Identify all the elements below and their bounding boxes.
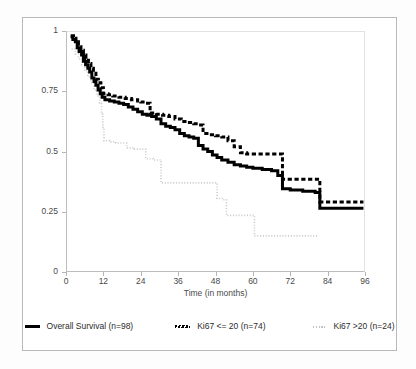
x-tick-mark: [66, 272, 67, 276]
chart-legend: Overall Survival (n=98) Ki67 <= 20 (n=74…: [22, 316, 397, 336]
dotted-line-swatch-icon: [312, 322, 329, 330]
figure-canvas: 10.750.50.250 01224364860728496 Time (in…: [0, 0, 416, 369]
x-tick-label: 84: [313, 277, 343, 286]
x-tick-mark: [253, 272, 254, 276]
y-tick-label: 0.5: [26, 147, 58, 156]
x-tick-label: 60: [238, 277, 268, 286]
y-tick-label: 0: [26, 267, 58, 276]
x-tick-label: 72: [275, 277, 305, 286]
legend-label-overall-survival: Overall Survival (n=98): [47, 321, 134, 331]
ki67-low-curve: [71, 36, 364, 202]
x-tick-mark: [178, 272, 179, 276]
x-axis-title: Time (in months): [66, 288, 365, 298]
legend-item-overall-survival: Overall Survival (n=98): [25, 321, 134, 331]
dashed-line-swatch-icon: [175, 322, 192, 330]
x-tick-mark: [328, 272, 329, 276]
x-tick-mark: [216, 272, 217, 276]
legend-item-ki67-high: Ki67 >20 (n=24): [312, 321, 395, 331]
x-tick-label: 12: [88, 277, 118, 286]
legend-label-ki67-low: Ki67 <= 20 (n=74): [197, 321, 265, 331]
x-tick-mark: [141, 272, 142, 276]
solid-line-swatch-icon: [25, 322, 42, 330]
x-tick-label: 96: [350, 277, 380, 286]
y-tick-label: 0.25: [26, 207, 58, 216]
plot-area: [66, 31, 365, 272]
survival-curves: [66, 31, 365, 272]
x-tick-label: 48: [201, 277, 231, 286]
legend-label-ki67-high: Ki67 >20 (n=24): [334, 321, 395, 331]
x-tick-mark: [103, 272, 104, 276]
y-tick-label: 1: [26, 26, 58, 35]
y-tick-label: 0.75: [26, 86, 58, 95]
x-tick-label: 24: [126, 277, 156, 286]
ki67-high-curve: [72, 49, 319, 236]
x-tick-label: 36: [163, 277, 193, 286]
x-tick-mark: [290, 272, 291, 276]
x-tick-label: 0: [51, 277, 81, 286]
x-tick-mark: [365, 272, 366, 276]
legend-item-ki67-low: Ki67 <= 20 (n=74): [175, 321, 265, 331]
